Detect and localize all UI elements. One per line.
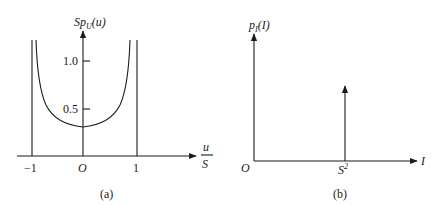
tick-label-1-0: 1.0 <box>63 54 78 68</box>
origin-label-a: O <box>78 161 87 175</box>
y-axis-label-b: pI(I) <box>248 18 270 34</box>
panel-a: 1.0 0.5 −1 O 1 SpU(u) u S (a) <box>17 15 213 201</box>
spike-label: S2 <box>338 162 348 177</box>
tick-label-1: 1 <box>133 161 139 175</box>
x-axis-label-num: u <box>203 140 209 154</box>
x-axis-label-den: S <box>202 157 208 171</box>
panel-b: pI(I) O S2 I (b) <box>241 18 426 201</box>
caption-b: (b) <box>333 187 347 201</box>
tick-label-0-5: 0.5 <box>63 102 78 116</box>
origin-label-b: O <box>241 161 250 175</box>
y-axis-label-a: SpU(u) <box>74 15 106 31</box>
tick-label-neg1: −1 <box>24 161 37 175</box>
x-axis-label-b: I <box>420 154 426 168</box>
caption-a: (a) <box>100 187 113 201</box>
figure-canvas: 1.0 0.5 −1 O 1 SpU(u) u S (a) pI(I) O S2… <box>0 0 441 205</box>
